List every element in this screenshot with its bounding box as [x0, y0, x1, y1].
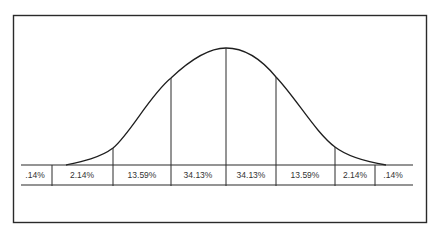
segment-label: 34.13% [184, 170, 213, 180]
segment-label: .14% [25, 170, 45, 180]
segment-label: 13.59% [128, 170, 157, 180]
segment-label: 13.59% [291, 170, 320, 180]
segment-label: 2.14% [343, 170, 368, 180]
normal-distribution-chart: .14% 2.14% 13.59% 34.13% 34.13% 13.59% 2… [0, 0, 437, 235]
segment-label: 34.13% [237, 170, 266, 180]
segment-label: .14% [383, 170, 403, 180]
chart-frame [14, 16, 427, 223]
segment-label: 2.14% [70, 170, 95, 180]
